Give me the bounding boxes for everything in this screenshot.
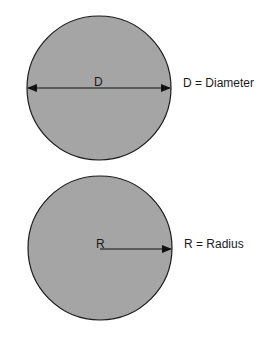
diameter-inner-label: D — [94, 75, 103, 89]
circle-diagram: D D = Diameter R R = Radius — [0, 0, 271, 338]
radius-figure: R R = Radius — [28, 176, 244, 320]
radius-inner-label: R — [96, 237, 105, 251]
diameter-legend: D = Diameter — [183, 76, 254, 90]
diameter-figure: D D = Diameter — [27, 16, 254, 160]
radius-legend: R = Radius — [184, 237, 244, 251]
